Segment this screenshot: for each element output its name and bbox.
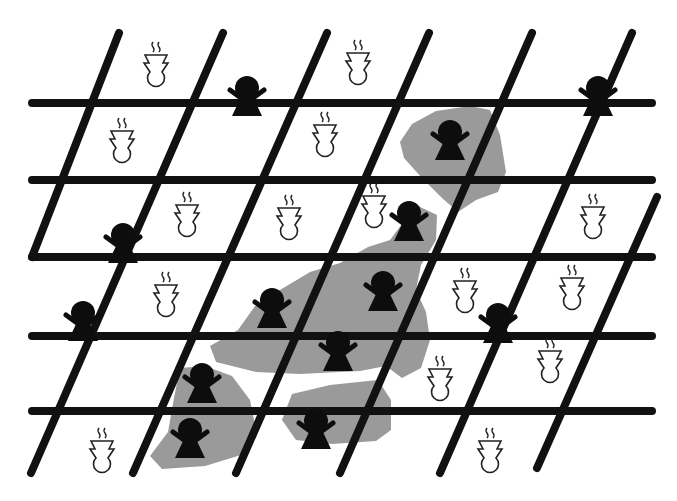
steaming-cup-icon [478,428,502,473]
steaming-cup-icon [362,183,386,228]
steaming-cup-icon [538,338,562,383]
steaming-cup-icon [346,40,370,85]
steaming-cup-icon [313,112,337,157]
person-icon [66,301,100,341]
steaming-cup-icon [154,272,178,317]
steaming-cup-icon [90,428,114,473]
steaming-cup-icon [453,268,477,313]
person-icon [392,201,426,241]
diagonal-line-1 [32,33,119,257]
steaming-cup-icon [144,42,168,87]
steaming-cup-icon [581,194,605,239]
grid-network-diagram [0,0,677,501]
diagram-canvas [0,0,677,501]
steaming-cup-icon [110,118,134,163]
steaming-cup-icon [175,192,199,237]
person-icon [230,76,264,116]
steaming-cup-icon [428,356,452,401]
steaming-cup-icon [560,265,584,310]
steaming-cup-icon [277,195,301,240]
